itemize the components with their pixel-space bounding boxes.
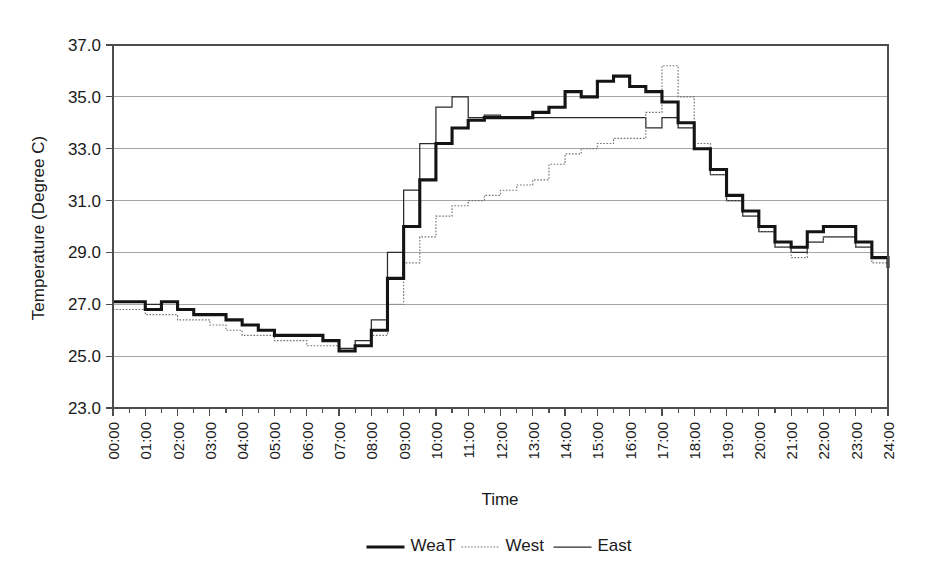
x-tick-label: 00:00 xyxy=(105,422,122,460)
x-axis-title: Time xyxy=(481,490,518,509)
x-tick-label: 08:00 xyxy=(363,422,380,460)
y-tick-label: 23.0 xyxy=(68,399,101,418)
legend-label-weat: WeaT xyxy=(411,536,456,555)
y-tick-label: 35.0 xyxy=(68,88,101,107)
x-tick-label: 22:00 xyxy=(815,422,832,460)
x-tick-label: 23:00 xyxy=(848,422,865,460)
x-tick-label: 11:00 xyxy=(460,422,477,458)
x-tick-label: 16:00 xyxy=(622,422,639,460)
y-tick-label: 31.0 xyxy=(68,192,101,211)
legend-label-east: East xyxy=(598,536,632,555)
x-tick-label: 20:00 xyxy=(751,422,768,460)
series-line-west xyxy=(113,66,888,351)
x-tick-label: 06:00 xyxy=(299,422,316,460)
chart-legend: WeaTWestEast xyxy=(367,536,632,555)
x-tick-label: 18:00 xyxy=(686,422,703,460)
x-tick-label: 12:00 xyxy=(493,422,510,460)
x-tick-label: 15:00 xyxy=(589,422,606,460)
x-tick-label: 09:00 xyxy=(396,422,413,460)
y-axis-title: Temperature (Degree C) xyxy=(29,136,48,320)
y-tick-label: 25.0 xyxy=(68,347,101,366)
y-tick-label: 29.0 xyxy=(68,243,101,262)
x-tick-label: 19:00 xyxy=(719,422,736,460)
x-axis-ticks xyxy=(113,408,888,416)
x-tick-label: 21:00 xyxy=(783,422,800,460)
legend-label-west: West xyxy=(506,536,545,555)
x-tick-label: 10:00 xyxy=(428,422,445,460)
x-tick-label: 01:00 xyxy=(137,422,154,460)
y-axis-ticks xyxy=(106,45,113,408)
y-tick-label: 33.0 xyxy=(68,140,101,159)
x-tick-label: 07:00 xyxy=(331,422,348,460)
y-tick-label: 37.0 xyxy=(68,36,101,55)
x-axis-tick-labels: 00:0001:0002:0003:0004:0005:0006:0007:00… xyxy=(105,422,897,460)
x-tick-label: 24:00 xyxy=(880,422,897,460)
y-axis-tick-labels: 23.025.027.029.031.033.035.037.0 xyxy=(68,36,101,418)
series-lines xyxy=(113,66,888,351)
x-tick-label: 04:00 xyxy=(234,422,251,460)
y-tick-label: 27.0 xyxy=(68,295,101,314)
x-tick-label: 17:00 xyxy=(654,422,671,460)
series-line-east xyxy=(113,97,888,348)
x-tick-label: 03:00 xyxy=(202,422,219,460)
x-tick-label: 02:00 xyxy=(170,422,187,460)
temperature-time-chart: 23.025.027.029.031.033.035.037.0 00:0001… xyxy=(0,0,929,586)
chart-canvas: 23.025.027.029.031.033.035.037.0 00:0001… xyxy=(0,0,929,586)
x-tick-label: 14:00 xyxy=(557,422,574,460)
series-line-weat xyxy=(113,76,888,351)
x-tick-label: 13:00 xyxy=(525,422,542,460)
x-tick-label: 05:00 xyxy=(266,422,283,460)
